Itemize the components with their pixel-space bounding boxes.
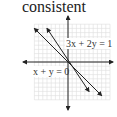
equation-label-0: 3x + 2y = 1 (66, 38, 112, 49)
graph: 3x + 2y = 1x + y = 0 (0, 0, 117, 117)
equation-label-1: x + y = 0 (33, 66, 69, 77)
